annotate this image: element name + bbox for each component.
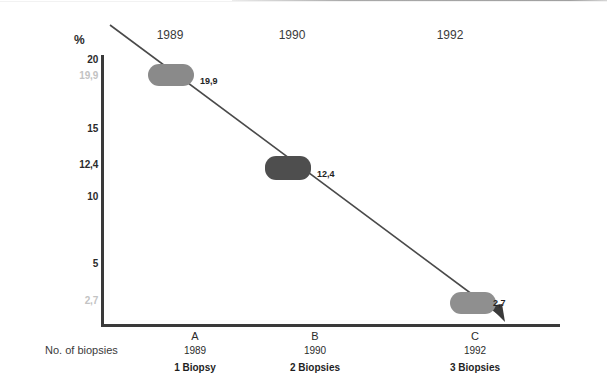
y-tick-2-7: 2,7 <box>58 295 98 307</box>
data-point-label-1992: 2,7 <box>493 298 506 308</box>
category-year-c: 1992 <box>435 343 515 359</box>
y-tick-label-10: 10 <box>64 191 98 202</box>
x-axis-caption: No. of biopsies <box>45 344 118 356</box>
category-group-c: C 1992 3 Biopsies <box>435 329 515 376</box>
x-axis-line <box>101 324 560 327</box>
y-tick-label-12-4: 12,4 <box>64 159 98 170</box>
category-letter-a: A <box>155 329 235 343</box>
category-year-a: 1989 <box>155 343 235 359</box>
category-group-a: A 1989 1 Biopsy <box>155 329 235 376</box>
y-tick-19-9: 19,9 <box>58 70 98 82</box>
chart-page: % 20 19,9 15 12,4 10 5 2,7 1989 1990 199… <box>0 0 607 378</box>
y-tick-10: 10 <box>58 191 98 203</box>
category-count-b: 2 Biopsies <box>275 359 355 376</box>
data-point-marker-1990[interactable] <box>265 156 311 180</box>
category-count-c: 3 Biopsies <box>435 359 515 376</box>
category-year-b: 1990 <box>275 343 355 359</box>
y-tick-label-5: 5 <box>64 258 98 269</box>
top-header-1992: 1992 <box>410 28 490 42</box>
data-point-label-1989: 19,9 <box>200 76 218 86</box>
category-letter-c: C <box>435 329 515 343</box>
top-header-1990: 1990 <box>252 28 332 42</box>
y-tick-label-19-9: 19,9 <box>64 70 98 81</box>
top-header-1989: 1989 <box>130 28 210 42</box>
y-tick-15: 15 <box>58 123 98 135</box>
data-point-label-1990: 12,4 <box>317 169 335 179</box>
y-tick-5: 5 <box>58 258 98 270</box>
y-tick-20: 20 <box>58 54 98 66</box>
y-axis-line <box>101 55 104 327</box>
y-tick-label-15: 15 <box>64 123 98 134</box>
y-axis-unit-label: % <box>74 33 85 47</box>
y-tick-label-2-7: 2,7 <box>64 295 98 306</box>
y-tick-12-4: 12,4 <box>58 159 98 171</box>
category-group-b: B 1990 2 Biopsies <box>275 329 355 376</box>
data-point-marker-1989[interactable] <box>148 64 194 86</box>
category-letter-b: B <box>275 329 355 343</box>
category-count-a: 1 Biopsy <box>155 359 235 376</box>
data-point-marker-1992[interactable] <box>450 292 496 314</box>
y-tick-label-20: 20 <box>64 54 98 65</box>
scan-edge-decoration-secondary <box>0 1 607 2</box>
